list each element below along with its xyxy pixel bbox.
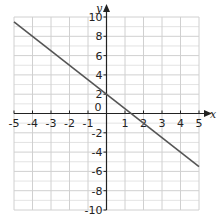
x-tick-label: -5 — [9, 117, 20, 130]
x-axis-label: x — [210, 108, 217, 121]
y-tick-label: 8 — [96, 30, 103, 43]
x-tick-label: -3 — [46, 117, 57, 130]
axes — [14, 4, 212, 210]
x-tick-label: 5 — [196, 117, 203, 130]
line-chart: -5-4-3-2-112345-10-8-6-4-22468100 x y — [0, 0, 219, 216]
y-tick-label: -8 — [92, 185, 103, 198]
y-tick-label: -10 — [85, 204, 103, 216]
y-tick-label: -4 — [92, 146, 103, 159]
y-tick-label: 4 — [96, 69, 103, 82]
y-tick-label: 6 — [96, 50, 103, 63]
x-tick-label: -2 — [64, 117, 75, 130]
x-tick-label: -4 — [27, 117, 38, 130]
x-tick-label: 4 — [177, 117, 184, 130]
y-tick-label: -6 — [92, 165, 103, 178]
y-tick-label: -2 — [92, 127, 103, 140]
y-axis-label: y — [95, 2, 103, 15]
x-tick-label: 3 — [159, 117, 166, 130]
origin-label: 0 — [95, 101, 102, 114]
x-tick-label: 1 — [122, 117, 129, 130]
